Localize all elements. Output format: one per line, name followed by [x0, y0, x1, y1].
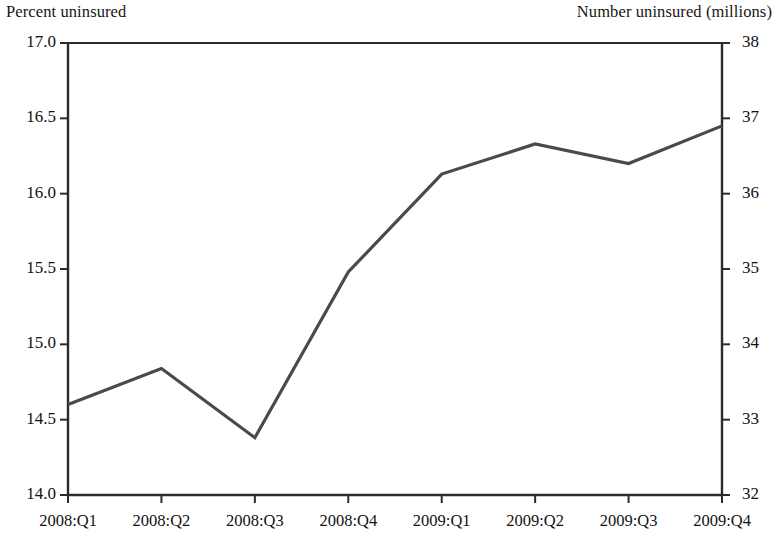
right-tick-label: 38 [742, 32, 780, 52]
left-tick-label: 17.0 [8, 32, 56, 52]
plot-area [0, 0, 780, 543]
x-tick-label: 2009:Q4 [693, 511, 751, 531]
right-tick-label: 36 [742, 183, 780, 203]
right-tick-label: 32 [742, 484, 780, 504]
x-tick-label: 2008:Q1 [39, 511, 97, 531]
x-tick-label: 2008:Q4 [319, 511, 377, 531]
left-tick-label: 14.5 [8, 409, 56, 429]
x-tick-label: 2009:Q3 [600, 511, 658, 531]
left-tick-label: 15.0 [8, 333, 56, 353]
data-series-line [68, 126, 722, 438]
chart-figure: Percent uninsured Number uninsured (mill… [0, 0, 780, 543]
left-tick-label: 14.0 [8, 484, 56, 504]
x-tick-label: 2009:Q2 [506, 511, 564, 531]
x-tick-label: 2009:Q1 [413, 511, 471, 531]
right-tick-label: 34 [742, 333, 780, 353]
left-tick-label: 15.5 [8, 258, 56, 278]
x-axis-ticks [68, 495, 722, 503]
left-tick-label: 16.5 [8, 107, 56, 127]
right-tick-label: 37 [742, 107, 780, 127]
x-tick-label: 2008:Q3 [226, 511, 284, 531]
right-tick-label: 33 [742, 409, 780, 429]
left-tick-label: 16.0 [8, 183, 56, 203]
axis-frame [68, 43, 722, 495]
x-tick-label: 2008:Q2 [133, 511, 191, 531]
right-tick-label: 35 [742, 258, 780, 278]
